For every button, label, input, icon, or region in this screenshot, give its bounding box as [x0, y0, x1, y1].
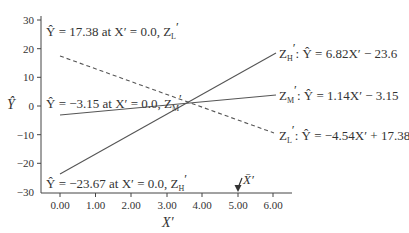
x-axis [41, 193, 292, 197]
x-tick-labels: 0.00 1.00 2.00 3.00 4.00 5.00 6.00 [50, 199, 283, 211]
x-tick-label: 0.00 [50, 199, 70, 211]
equation-text: : Ŷ = 6.82X′ − 23.6 [296, 46, 398, 61]
equation-text: : Ŷ = −4.54X′ + 17.38 [295, 128, 409, 143]
annotation-text: Ŷ = −23.67 at X′ = 0.0, Z [46, 176, 178, 191]
equation-zl: ZL′: Ŷ = −4.54X′ + 17.38 [279, 122, 409, 145]
y-tick-label: 10 [23, 71, 35, 83]
mean-label: X̄′ [242, 172, 254, 187]
svg-text:Ŷ = 17.38 at X′ = 0.0, ZL′: Ŷ = 17.38 at X′ = 0.0, ZL′ [46, 19, 179, 41]
equation-subscript: L [287, 136, 292, 145]
svg-text:ZM′: Ŷ = 1.14X′ − 3.15: ZM′: Ŷ = 1.14X′ − 3.15 [279, 82, 399, 105]
equation-zm: ZM′: Ŷ = 1.14X′ − 3.15 [279, 82, 399, 105]
y-tick-label: 0 [29, 100, 35, 112]
svg-text:Ŷ = −23.67 at X′ = 0.0, ZH′: Ŷ = −23.67 at X′ = 0.0, ZH′ [46, 171, 187, 193]
svg-text:Ŷ = −3.15 at X′ = 0.0, ZM′: Ŷ = −3.15 at X′ = 0.0, ZM′ [46, 91, 182, 113]
equation-z: Z [279, 88, 287, 103]
equation-subscript: M [287, 96, 294, 105]
annotation-zl: Ŷ = 17.38 at X′ = 0.0, ZL′ [46, 19, 179, 41]
series-line-zl [60, 56, 274, 133]
x-tick-label: 2.00 [121, 199, 141, 211]
equation-z: Z [279, 46, 287, 61]
y-axis-title: Ŷ [7, 96, 17, 112]
equation-zh: ZH′: Ŷ = 6.82X′ − 23.6 [279, 40, 398, 63]
x-tick-label: 5.00 [228, 199, 248, 211]
annotation-text: Ŷ = 17.38 at X′ = 0.0, Z [46, 24, 171, 39]
y-tick-label: −20 [17, 157, 35, 169]
y-tick-label: −30 [17, 186, 35, 198]
y-tick-label: 30 [23, 14, 35, 26]
mean-marker: X̄′ [235, 172, 254, 192]
annotation-text: Ŷ = −3.15 at X′ = 0.0, Z [46, 96, 172, 111]
x-tick-label: 6.00 [263, 199, 283, 211]
series-line-zh [60, 53, 276, 174]
x-tick-label: 4.00 [192, 199, 212, 211]
annotation-prime: ′ [176, 19, 179, 34]
x-tick-label: 3.00 [157, 199, 177, 211]
y-tick-label: 20 [23, 43, 35, 55]
annotation-zm: Ŷ = −3.15 at X′ = 0.0, ZM′ [46, 91, 182, 113]
chart: 30 20 10 0 −10 −20 −30 0.00 1.00 2.00 3.… [0, 0, 409, 233]
svg-text:ZL′: Ŷ = −4.54X′ + 17.38: ZL′: Ŷ = −4.54X′ + 17.38 [279, 122, 409, 145]
equation-text: : Ŷ = 1.14X′ − 3.15 [297, 88, 399, 103]
y-tick-labels: 30 20 10 0 −10 −20 −30 [17, 14, 35, 198]
equation-z: Z [279, 128, 287, 143]
y-tick-label: −10 [17, 129, 35, 141]
annotation-zh: Ŷ = −23.67 at X′ = 0.0, ZH′ [46, 171, 187, 193]
annotation-subscript: M [172, 104, 179, 113]
annotation-prime: ′ [179, 91, 182, 106]
y-axis [37, 16, 41, 193]
x-axis-title: X′ [161, 215, 175, 230]
svg-text:ZH′: Ŷ = 6.82X′ − 23.6: ZH′: Ŷ = 6.82X′ − 23.6 [279, 40, 398, 63]
equation-subscript: H [287, 54, 293, 63]
annotation-prime: ′ [184, 171, 187, 186]
x-tick-label: 1.00 [86, 199, 106, 211]
